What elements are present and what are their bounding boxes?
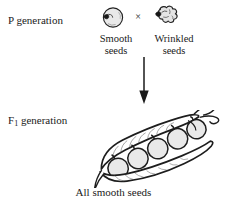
smooth-pea-seed-icon [100,4,126,34]
down-arrow-icon [128,56,160,110]
wrinkled-seeds-label-line1: Wrinkled [146,33,202,45]
wrinkled-seeds-label: Wrinkled seeds [146,33,202,56]
f1-phenotype-caption: All smooth seeds [0,186,227,198]
smooth-seeds-label-line1: Smooth [92,33,140,45]
smooth-seeds-label: Smooth seeds [92,33,140,56]
open-pea-pod-icon [82,110,227,192]
f1-generation-label-suffix: generation [18,114,67,126]
genetics-cross-figure: P generation × Smooth seeds Wrinkled see… [0,0,227,207]
p-generation-label: P generation [8,14,63,26]
cross-symbol: × [131,11,145,22]
f1-generation-label: F1 generation [8,114,67,130]
smooth-seeds-label-line2: seeds [92,45,140,57]
wrinkled-seeds-label-line2: seeds [146,45,202,57]
wrinkled-pea-seed-icon [152,2,182,34]
